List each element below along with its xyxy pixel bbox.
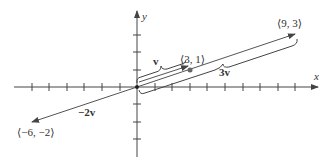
vector-v: [139, 66, 188, 82]
y-axis: [133, 11, 141, 157]
label-v: v: [153, 55, 159, 67]
label-3v: 3v: [219, 66, 231, 78]
vector-diagram: x y v ⟨3, 1⟩ 3v ⟨9, 3⟩ −2v ⟨−6, −2⟩: [0, 0, 329, 165]
label-point-neg6-neg2: ⟨−6, −2⟩: [17, 126, 55, 138]
x-axis-label: x: [313, 70, 319, 82]
x-axis: [14, 83, 318, 91]
origin-point: [135, 85, 139, 89]
label-point-9-3: ⟨9, 3⟩: [277, 17, 302, 29]
vector-3v: [137, 34, 295, 87]
label-point-3-1: ⟨3, 1⟩: [180, 53, 205, 65]
y-axis-label: y: [141, 10, 147, 22]
point-3-1: [188, 68, 193, 73]
label-neg2v: −2v: [78, 106, 96, 118]
brace-v: [137, 60, 186, 83]
